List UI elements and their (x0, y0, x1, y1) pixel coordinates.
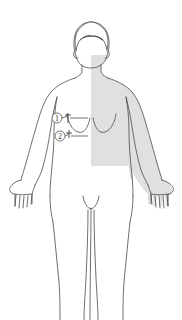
marker-1-label: 1 (55, 114, 59, 123)
body-diagram-figure: 1 2 (0, 0, 182, 320)
marker-2-label: 2 (58, 132, 62, 141)
body-diagram-svg: 1 2 (0, 0, 182, 320)
